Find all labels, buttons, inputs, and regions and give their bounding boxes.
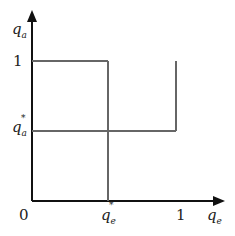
x-tick-1-text: 1: [176, 206, 186, 224]
y-tick-qa-star-sub: a: [22, 128, 27, 138]
x-tick-qe-star-sup: *: [109, 201, 114, 210]
y-axis-label: qa: [12, 22, 27, 40]
x-tick-qe-star-sub: e: [111, 216, 116, 226]
diagram-canvas: [0, 0, 235, 236]
x-tick-1: 1: [176, 208, 186, 223]
y-tick-qa-star-sup: *: [21, 114, 26, 123]
x-axis-label-sub: e: [217, 216, 222, 226]
x-tick-0: 0: [19, 208, 29, 223]
x-tick-qe-star: qe *: [101, 208, 116, 226]
y-axis-arrow-icon: [27, 10, 37, 22]
y-tick-1-text: 1: [13, 52, 23, 70]
x-axis-arrow-icon: [213, 196, 225, 206]
x-axis-label-main: q: [207, 206, 217, 224]
x-axis-label: qe: [207, 208, 222, 226]
y-tick-1: 1: [13, 54, 23, 69]
x-tick-0-text: 0: [19, 206, 29, 224]
y-axis-label-sub: a: [22, 30, 27, 40]
y-tick-qa-star: qa *: [12, 120, 27, 138]
y-axis-label-main: q: [12, 20, 22, 38]
